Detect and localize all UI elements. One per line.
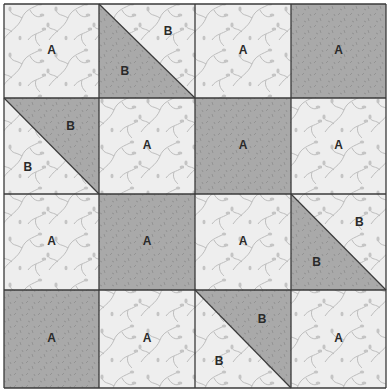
- quilt-cell-a: A: [195, 4, 291, 98]
- quilt-cell-a: A: [99, 194, 195, 290]
- quilt-cell-a: A: [4, 4, 99, 98]
- quilt-cell-hst: BB: [99, 4, 195, 98]
- piece-label: A: [334, 138, 343, 152]
- piece-label: B: [66, 119, 75, 133]
- piece-label: A: [239, 234, 248, 248]
- piece-label: A: [143, 331, 152, 345]
- piece-label: A: [47, 331, 56, 345]
- piece-label: B: [355, 215, 364, 229]
- quilt-cell-a: A: [291, 290, 386, 388]
- piece-label: A: [47, 234, 56, 248]
- piece-label: B: [312, 255, 321, 269]
- piece-label: B: [215, 354, 224, 368]
- quilt-cell-a: A: [4, 194, 99, 290]
- piece-label: A: [47, 43, 56, 57]
- quilt-block-diagram: ABBAABBAAAAAABBAABBA: [0, 0, 387, 389]
- piece-label: A: [239, 138, 248, 152]
- piece-label: A: [334, 43, 343, 57]
- piece-label: B: [258, 312, 267, 326]
- piece-label: A: [143, 234, 152, 248]
- quilt-cell-a: A: [291, 98, 386, 194]
- piece-label: A: [334, 331, 343, 345]
- piece-label: B: [164, 24, 173, 38]
- quilt-cell-hst: BB: [4, 98, 99, 194]
- quilt-cell-a: A: [99, 290, 195, 388]
- piece-label: B: [121, 64, 130, 78]
- quilt-cell-hst: BB: [195, 290, 291, 388]
- quilt-cell-a: A: [4, 290, 99, 388]
- piece-label: A: [239, 43, 248, 57]
- piece-label: B: [23, 160, 32, 174]
- quilt-cell-a: A: [195, 194, 291, 290]
- quilt-cell-a: A: [195, 98, 291, 194]
- quilt-cell-hst: BB: [291, 194, 386, 290]
- quilt-cell-a: A: [99, 98, 195, 194]
- piece-label: A: [143, 138, 152, 152]
- quilt-cell-a: A: [291, 4, 386, 98]
